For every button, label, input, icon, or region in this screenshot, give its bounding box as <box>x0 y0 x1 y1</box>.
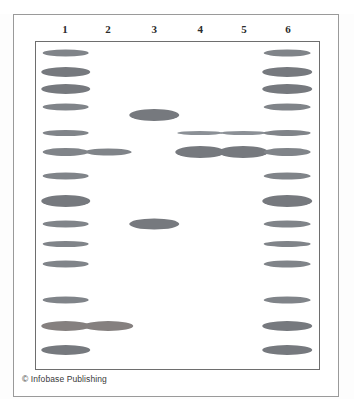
lane-label-1: 1 <box>54 22 76 36</box>
gel-band <box>264 148 311 156</box>
gel-band <box>130 109 180 121</box>
lane-label-3: 3 <box>143 22 165 36</box>
gel-band <box>84 321 134 331</box>
lane-label-6: 6 <box>277 22 299 36</box>
gel-figure: 123456 © Infobase Publishing <box>0 0 354 413</box>
gel-band <box>175 146 225 158</box>
gel-band <box>219 146 269 158</box>
gel-band <box>263 321 313 331</box>
lane-label-row: 123456 <box>35 22 320 39</box>
gel-band <box>42 173 89 180</box>
gel-band <box>264 130 311 136</box>
scan-margin-top <box>0 0 354 14</box>
lane-label-2: 2 <box>97 22 119 36</box>
lane-label-5: 5 <box>233 22 255 36</box>
gel-band <box>264 49 311 56</box>
gel-band <box>130 219 180 230</box>
gel-band <box>41 345 91 355</box>
gel-band <box>42 297 89 304</box>
gel-band <box>42 49 89 56</box>
gel-band <box>263 345 313 355</box>
gel-plate <box>35 41 320 370</box>
gel-band <box>263 67 313 77</box>
scan-margin-bottom <box>0 399 354 413</box>
gel-band <box>263 84 313 94</box>
gel-band <box>42 148 89 156</box>
lane-label-4: 4 <box>189 22 211 36</box>
gel-band <box>264 103 311 110</box>
gel-band <box>264 297 311 304</box>
gel-band <box>42 130 89 136</box>
gel-band <box>264 241 311 247</box>
gel-band <box>177 131 222 135</box>
gel-band <box>42 241 89 247</box>
gel-band <box>41 67 91 77</box>
gel-band <box>42 103 89 110</box>
copyright-credit: © Infobase Publishing <box>22 374 107 384</box>
gel-band <box>42 221 89 228</box>
gel-band <box>264 221 311 228</box>
gel-band <box>221 131 266 135</box>
gel-band <box>264 260 311 267</box>
gel-band <box>41 84 91 94</box>
gel-band <box>263 195 313 207</box>
gel-band <box>41 195 91 207</box>
gel-band <box>42 260 89 267</box>
gel-band <box>264 173 311 180</box>
gel-band <box>85 148 132 155</box>
